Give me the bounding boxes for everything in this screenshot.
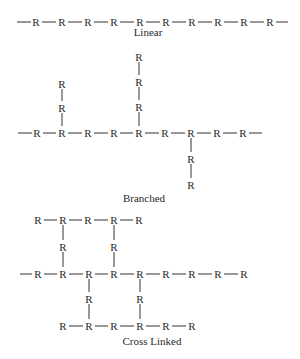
monomer-r: R bbox=[58, 127, 66, 139]
monomer-r: R bbox=[85, 268, 93, 280]
branched-structure: RRRRRRRRRRRRRRRR bbox=[18, 51, 262, 191]
monomer-r: R bbox=[110, 16, 118, 28]
monomer-r: R bbox=[162, 16, 170, 28]
monomer-r: R bbox=[188, 320, 196, 332]
monomer-r: R bbox=[59, 241, 67, 253]
monomer-r: R bbox=[161, 127, 169, 139]
monomer-r: R bbox=[187, 127, 195, 139]
monomer-r: R bbox=[85, 320, 93, 332]
monomer-r: R bbox=[136, 293, 144, 305]
monomer-r: R bbox=[59, 320, 67, 332]
monomer-r: R bbox=[135, 101, 143, 113]
monomer-r: R bbox=[136, 268, 144, 280]
monomer-r: R bbox=[110, 214, 118, 226]
monomer-r: R bbox=[110, 127, 118, 139]
monomer-r: R bbox=[188, 16, 196, 28]
linear-caption: Linear bbox=[134, 26, 163, 38]
monomer-r: R bbox=[240, 16, 248, 28]
monomer-r: R bbox=[58, 16, 66, 28]
monomer-r: R bbox=[213, 127, 221, 139]
monomer-r: R bbox=[214, 268, 222, 280]
monomer-r: R bbox=[135, 214, 143, 226]
monomer-r: R bbox=[187, 179, 195, 191]
monomer-r: R bbox=[214, 16, 222, 28]
monomer-r: R bbox=[135, 51, 143, 63]
monomer-r: R bbox=[32, 16, 40, 28]
monomer-r: R bbox=[84, 16, 92, 28]
monomer-r: R bbox=[135, 127, 143, 139]
polymer-structures-diagram: RRRRRRRRRR Linear RRRRRRRRRRRRRRRR Branc… bbox=[0, 0, 300, 359]
monomer-r: R bbox=[58, 102, 66, 114]
monomer-r: R bbox=[85, 293, 93, 305]
monomer-r: R bbox=[33, 127, 41, 139]
monomer-r: R bbox=[110, 268, 118, 280]
monomer-r: R bbox=[135, 76, 143, 88]
monomer-r: R bbox=[162, 268, 170, 280]
monomer-r: R bbox=[110, 320, 118, 332]
monomer-r: R bbox=[84, 127, 92, 139]
monomer-r: R bbox=[239, 127, 247, 139]
monomer-r: R bbox=[84, 214, 92, 226]
monomer-r: R bbox=[58, 78, 66, 90]
cross-linked-caption: Cross Linked bbox=[123, 335, 182, 347]
monomer-r: R bbox=[59, 268, 67, 280]
monomer-r: R bbox=[162, 320, 170, 332]
monomer-r: R bbox=[240, 268, 248, 280]
monomer-r: R bbox=[59, 214, 67, 226]
monomer-r: R bbox=[34, 214, 42, 226]
monomer-r: R bbox=[136, 320, 144, 332]
branched-caption: Branched bbox=[123, 192, 166, 204]
monomer-r: R bbox=[187, 153, 195, 165]
monomer-r: R bbox=[110, 241, 118, 253]
monomer-r: R bbox=[266, 16, 274, 28]
cross-linked-structure: RRRRRRRRRRRRRRRRRRRRRRRR bbox=[20, 214, 248, 332]
monomer-r: R bbox=[34, 268, 42, 280]
monomer-r: R bbox=[188, 268, 196, 280]
